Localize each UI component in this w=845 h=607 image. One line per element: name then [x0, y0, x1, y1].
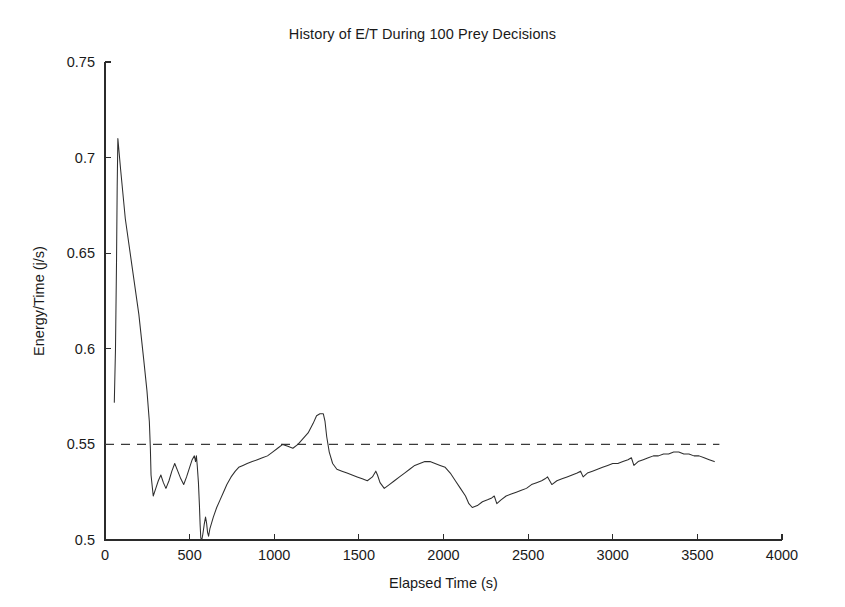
x-tick-label: 3000 — [597, 547, 629, 563]
x-tick-label: 3500 — [681, 547, 713, 563]
chart-figure: History of E/T During 100 Prey Decisions… — [0, 0, 845, 607]
x-tick-label: 500 — [178, 547, 202, 563]
x-tick-label: 4000 — [766, 547, 798, 563]
y-tick-label: 0.75 — [67, 54, 95, 70]
x-tick-label: 2500 — [512, 547, 544, 563]
y-tick-label: 0.7 — [75, 150, 95, 166]
y-axis-title: Energy/Time (j/s) — [31, 246, 47, 356]
y-tick-label: 0.65 — [67, 245, 95, 261]
axis-spines — [105, 62, 782, 540]
data-series-line-0 — [114, 138, 714, 540]
plot-area: 050010001500200025003000350040000.50.550… — [0, 0, 845, 607]
x-tick-label: 2000 — [427, 547, 459, 563]
x-tick-label: 0 — [101, 547, 109, 563]
x-tick-label: 1500 — [343, 547, 375, 563]
y-tick-label: 0.5 — [75, 532, 95, 548]
y-tick-label: 0.55 — [67, 436, 95, 452]
x-tick-label: 1000 — [258, 547, 290, 563]
y-tick-label: 0.6 — [75, 341, 95, 357]
x-axis-title: Elapsed Time (s) — [389, 575, 498, 591]
